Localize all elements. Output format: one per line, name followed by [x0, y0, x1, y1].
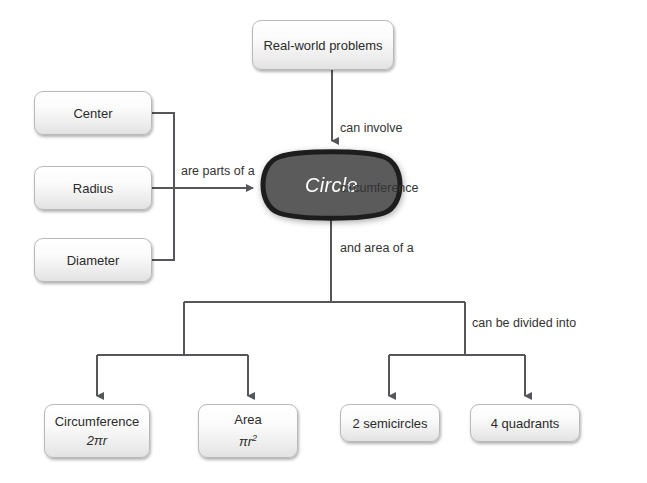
node-label: 2 semicircles	[352, 415, 427, 432]
node-label: Circumference	[55, 413, 140, 430]
edge-center-to-bus	[152, 113, 174, 188]
node-formula: πr2	[239, 430, 257, 450]
node-label: Center	[73, 105, 112, 122]
node-formula-exponent: 2	[252, 433, 257, 443]
caption-are-parts-of-a: are parts of a	[181, 161, 255, 181]
diagram-canvas: Real-world problems Center Radius Diamet…	[0, 0, 647, 483]
edge-diameter-to-bus	[152, 188, 174, 260]
node-4-quadrants[interactable]: 4 quadrants	[470, 404, 580, 442]
node-label: Diameter	[67, 252, 120, 269]
node-2-semicircles[interactable]: 2 semicircles	[340, 404, 440, 442]
caption-line-1: can involve	[340, 118, 419, 138]
caption-line-3: and area of a	[340, 238, 419, 258]
node-real-world-problems[interactable]: Real-world problems	[252, 20, 394, 70]
node-label: Area	[234, 411, 261, 428]
node-circumference[interactable]: Circumference 2πr	[44, 404, 150, 458]
caption-can-involve: can involve circumference and area of a	[340, 78, 419, 298]
node-area[interactable]: Area πr2	[198, 404, 298, 458]
node-formula: 2πr	[87, 432, 107, 449]
node-label: Radius	[73, 180, 113, 197]
caption-line-2: circumference	[340, 178, 419, 198]
node-center[interactable]: Center	[34, 91, 152, 135]
node-formula-base: πr	[239, 435, 252, 450]
node-label: 4 quadrants	[491, 415, 560, 432]
caption-can-be-divided-into: can be divided into	[472, 313, 576, 333]
node-label: Real-world problems	[263, 37, 382, 54]
node-diameter[interactable]: Diameter	[34, 238, 152, 282]
node-radius[interactable]: Radius	[34, 166, 152, 210]
